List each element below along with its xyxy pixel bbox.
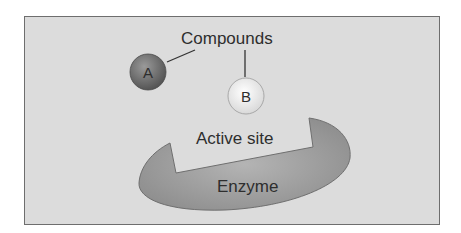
connector-line-a (167, 50, 195, 62)
compound-a-label: A (143, 64, 153, 81)
compound-b-label: B (241, 88, 251, 105)
enzyme-label: Enzyme (217, 177, 278, 196)
active-site-label: Active site (196, 129, 273, 148)
enzyme-diagram: Compounds A B Active site Enzyme (0, 0, 461, 233)
compounds-label: Compounds (181, 29, 273, 48)
